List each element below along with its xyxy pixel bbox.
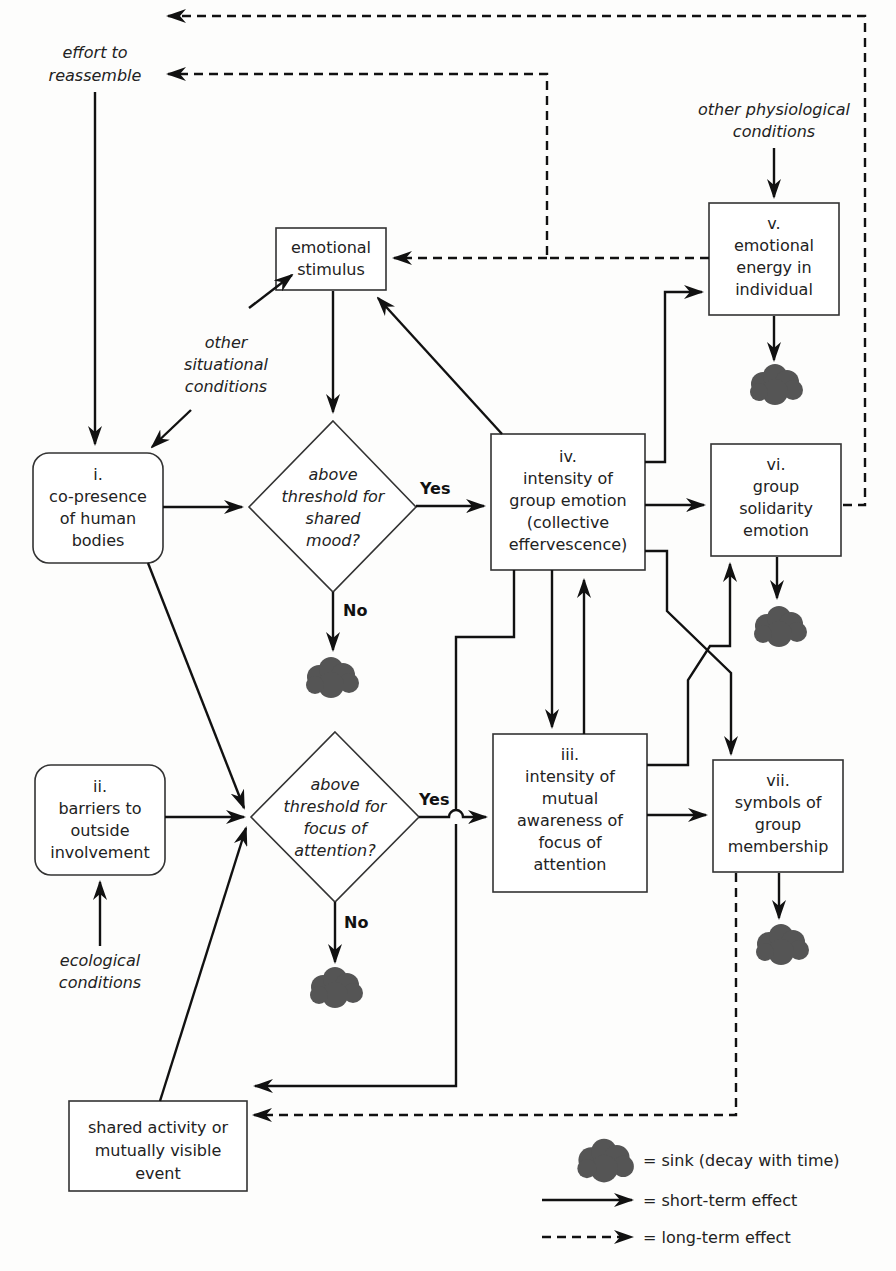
svg-text:barriers to: barriers to <box>58 799 141 818</box>
svg-text:of human: of human <box>60 509 136 528</box>
legend-long-label: = long-term effect <box>643 1228 791 1247</box>
svg-text:reassemble: reassemble <box>49 66 142 85</box>
svg-text:energy in: energy in <box>736 258 811 277</box>
svg-text:above: above <box>310 775 359 794</box>
svg-text:group: group <box>755 815 801 834</box>
svg-text:attention: attention <box>534 855 607 874</box>
svg-text:individual: individual <box>735 280 813 299</box>
svg-text:iv.: iv. <box>559 447 577 466</box>
short-term-arrows <box>95 92 779 1101</box>
svg-text:vii.: vii. <box>766 771 789 790</box>
node-vi-group-solidarity[interactable]: vi. group solidarity emotion <box>711 444 841 556</box>
label-physiological-conditions: other physiological conditions <box>698 100 850 141</box>
node-v-emotional-energy[interactable]: v. emotional energy in individual <box>709 203 839 315</box>
node-vii-symbols[interactable]: vii. symbols of group membership <box>713 760 843 872</box>
svg-text:bodies: bodies <box>72 531 125 550</box>
svg-text:awareness of: awareness of <box>517 811 623 830</box>
decision-focus-attention[interactable]: above threshold for focus of attention? <box>251 732 419 902</box>
svg-text:mutual: mutual <box>542 789 598 808</box>
label-situational-conditions: other situational conditions <box>184 333 268 396</box>
svg-text:emotional: emotional <box>291 238 371 257</box>
svg-text:intensity of: intensity of <box>523 469 613 488</box>
svg-text:ecological: ecological <box>60 951 141 970</box>
node-stimulus[interactable]: emotional stimulus <box>276 228 386 290</box>
svg-text:iii.: iii. <box>561 745 579 764</box>
svg-text:solidarity: solidarity <box>739 499 813 518</box>
svg-text:conditions: conditions <box>59 973 141 992</box>
sink-icon <box>750 364 803 405</box>
svg-text:stimulus: stimulus <box>297 260 365 279</box>
svg-text:intensity of: intensity of <box>525 767 615 786</box>
node-iv-group-emotion[interactable]: iv. intensity of group emotion (collecti… <box>491 434 645 570</box>
svg-text:effort to: effort to <box>62 43 127 62</box>
label-ecological-conditions: ecological conditions <box>59 951 141 992</box>
sink-icon <box>310 967 363 1008</box>
svg-text:attention?: attention? <box>294 841 376 860</box>
label-effort-to-reassemble: effort to reassemble <box>49 43 142 85</box>
node-shared-activity[interactable]: shared activity or mutually visible even… <box>69 1101 247 1191</box>
svg-text:other physiological: other physiological <box>698 100 850 119</box>
svg-text:conditions: conditions <box>733 122 815 141</box>
svg-text:i.: i. <box>93 465 103 484</box>
svg-text:mood?: mood? <box>306 531 360 550</box>
node-i-co-presence[interactable]: i. co-presence of human bodies <box>33 453 163 563</box>
svg-text:emotion: emotion <box>743 521 809 540</box>
svg-text:involvement: involvement <box>50 843 149 862</box>
svg-text:ii.: ii. <box>93 777 107 796</box>
svg-text:above: above <box>308 465 357 484</box>
legend-sink-label: = sink (decay with time) <box>643 1151 840 1170</box>
svg-text:conditions: conditions <box>185 377 267 396</box>
svg-text:focus of: focus of <box>303 819 369 838</box>
no-label-focus: No <box>344 913 368 932</box>
svg-text:co-presence: co-presence <box>49 487 147 506</box>
svg-text:membership: membership <box>728 837 829 856</box>
svg-text:(collective: (collective <box>527 513 609 532</box>
svg-text:effervescence): effervescence) <box>509 535 628 554</box>
yes-label-focus: Yes <box>418 790 450 809</box>
svg-text:other: other <box>205 333 249 352</box>
no-label-mood: No <box>343 601 367 620</box>
sink-icon <box>306 657 359 698</box>
svg-text:mutually visible: mutually visible <box>95 1141 222 1160</box>
svg-text:shared: shared <box>306 509 362 528</box>
svg-text:focus of: focus of <box>538 833 602 852</box>
svg-text:emotional: emotional <box>734 236 814 255</box>
svg-text:situational: situational <box>184 355 268 374</box>
svg-text:group emotion: group emotion <box>509 491 626 510</box>
node-iii-mutual-awareness[interactable]: iii. intensity of mutual awareness of fo… <box>493 734 647 892</box>
svg-text:event: event <box>135 1164 181 1183</box>
sink-icon <box>756 924 809 965</box>
svg-text:threshold for: threshold for <box>284 797 388 816</box>
diagram-canvas: emotional stimulus v. emotional energy i… <box>0 0 896 1271</box>
svg-text:group: group <box>753 477 799 496</box>
legend: = sink (decay with time) = short-term ef… <box>542 1139 840 1247</box>
decision-shared-mood[interactable]: above threshold for shared mood? <box>249 421 416 592</box>
svg-text:shared activity or: shared activity or <box>88 1118 228 1137</box>
svg-text:threshold for: threshold for <box>282 487 386 506</box>
yes-label-mood: Yes <box>419 479 451 498</box>
sink-legend-icon <box>577 1139 634 1183</box>
svg-text:vi.: vi. <box>767 455 786 474</box>
svg-text:outside: outside <box>71 821 130 840</box>
sink-icon <box>754 606 807 647</box>
svg-text:v.: v. <box>767 214 780 233</box>
svg-text:symbols of: symbols of <box>735 793 822 812</box>
legend-short-label: = short-term effect <box>643 1191 797 1210</box>
node-ii-barriers[interactable]: ii. barriers to outside involvement <box>35 765 165 875</box>
